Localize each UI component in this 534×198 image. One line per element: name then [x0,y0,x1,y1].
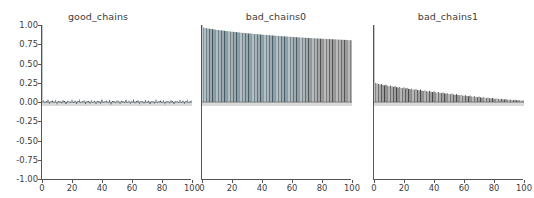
ytick-label-0.00: 0.00 [4,97,38,107]
xtick-label-20: 20 [227,183,238,193]
ytick-label-1.00: 1.00 [4,20,38,30]
panel-bad-chains1: bad_chains1 0 20 40 60 80 100 [368,0,534,198]
x-axis-spine [373,179,523,180]
x-axis-spine [41,179,191,180]
ytick-label--0.75: -0.75 [0,155,38,165]
xtick-label-20: 20 [399,183,410,193]
ytick-label-0.50: 0.50 [4,59,38,69]
xtick-label-60: 60 [127,183,138,193]
plot-area-good-chains [42,25,192,179]
x-axis-spine [201,179,351,180]
xtick-label-40: 40 [429,183,440,193]
xtick-label-60: 60 [459,183,470,193]
panel-title-bad-chains1: bad_chains1 [368,11,528,22]
xtick-label-20: 20 [67,183,78,193]
autocorrelation-figure: good_chains 1.00 0.75 0.50 0.25 0.00 -0.… [0,0,534,198]
xtick-label-80: 80 [157,183,168,193]
xtick-label-100: 100 [344,183,360,193]
ytick-label--0.50: -0.50 [0,136,38,146]
panel-bad-chains0: bad_chains0 0 20 40 60 80 100 [196,0,368,198]
xtick-label-0: 0 [39,183,44,193]
plot-area-bad-chains0 [202,25,352,179]
panel-good-chains: good_chains 1.00 0.75 0.50 0.25 0.00 -0.… [0,0,196,198]
xtick-label-80: 80 [489,183,500,193]
xtick-label-60: 60 [287,183,298,193]
xtick-label-100: 100 [516,183,532,193]
ytick-label-0.75: 0.75 [4,39,38,49]
xtick-label-40: 40 [97,183,108,193]
ytick-label-0.25: 0.25 [4,78,38,88]
ytick-label--0.25: -0.25 [0,116,38,126]
xtick-label-80: 80 [317,183,328,193]
plot-area-bad-chains1 [374,25,524,179]
xtick-label-0: 0 [199,183,204,193]
xtick-label-40: 40 [257,183,268,193]
ytick-label--1.00: -1.00 [0,174,38,184]
panel-title-bad-chains0: bad_chains0 [196,11,356,22]
xtick-label-0: 0 [371,183,376,193]
